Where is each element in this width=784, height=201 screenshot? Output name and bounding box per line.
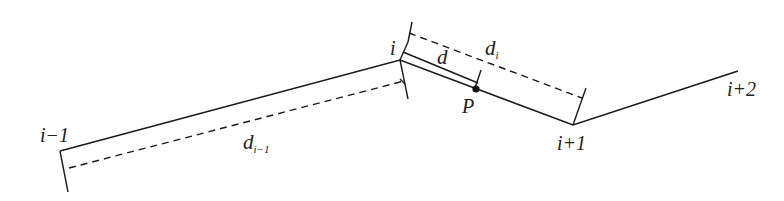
label-vertex-i-plus-2: i+2 (727, 78, 756, 100)
label-vertex-i-minus-1: i−1 (40, 124, 69, 146)
label-d-i-minus-1: di−1 (243, 130, 269, 155)
label-d-i-sub: i (496, 49, 499, 61)
label-vertex-i-plus-1: i+1 (557, 132, 586, 154)
point-p-marker (472, 85, 479, 92)
label-d-i: di (485, 36, 499, 61)
tick-i-minus-1 (60, 151, 68, 192)
tick-i-plus-1 (573, 88, 586, 125)
label-d-i-main: d (485, 36, 496, 60)
dim-tick-d (475, 70, 481, 88)
label-vertex-i: i (390, 37, 396, 59)
label-d-i-minus-1-sub: i−1 (254, 143, 270, 155)
label-point-p: P (461, 95, 474, 117)
polyline (60, 60, 738, 151)
dim-line-d-i-minus-1 (69, 81, 404, 168)
tick-i (408, 22, 412, 42)
tick-i-upper-ext (400, 42, 408, 60)
label-d-i-minus-1-main: d (243, 130, 254, 154)
label-d: d (437, 45, 448, 69)
polyline-diagram: i−1 i i+1 i+2 P di−1 di d (0, 0, 784, 201)
